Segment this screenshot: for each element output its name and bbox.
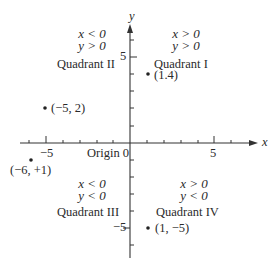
point-label-neg5-2: (−5, 2) bbox=[51, 102, 85, 115]
q3-y-cond: y < 0 bbox=[72, 190, 112, 202]
x-tick-label-neg5: −5 bbox=[40, 147, 53, 160]
point-neg5-2 bbox=[43, 106, 47, 110]
point-1-4 bbox=[146, 72, 150, 76]
y-axis-label: y bbox=[129, 10, 135, 23]
point-neg6-neg1 bbox=[29, 158, 33, 162]
q3-conditions: x < 0 y < 0 bbox=[72, 178, 112, 202]
q4-label: Quadrant IV bbox=[156, 206, 219, 219]
q4-conditions: x > 0 y < 0 bbox=[174, 178, 214, 202]
q3-label: Quadrant III bbox=[57, 206, 119, 219]
y-tick-label-neg5: −5 bbox=[113, 221, 126, 234]
y-tick-label-5: 5 bbox=[120, 50, 126, 63]
x-tick-label-5: 5 bbox=[210, 147, 216, 160]
q2-label: Quadrant II bbox=[57, 58, 115, 71]
point-label-1-neg5: (1, −5) bbox=[155, 222, 189, 235]
q1-y-cond: y > 0 bbox=[166, 40, 206, 52]
point-label-neg6-1: (−6, +1) bbox=[10, 164, 51, 177]
q2-conditions: x < 0 y > 0 bbox=[72, 28, 112, 52]
q1-conditions: x > 0 y > 0 bbox=[166, 28, 206, 52]
point-1-neg5 bbox=[146, 226, 150, 230]
point-label-1-4: (1.4) bbox=[154, 69, 178, 82]
coordinate-plane bbox=[0, 0, 272, 267]
q4-y-cond: y < 0 bbox=[174, 190, 214, 202]
origin-label: Origin 0 bbox=[87, 147, 129, 160]
q2-y-cond: y > 0 bbox=[72, 40, 112, 52]
x-axis-label: x bbox=[262, 136, 268, 149]
x-axis-arrow-icon bbox=[249, 140, 258, 146]
y-axis-arrow-icon bbox=[127, 24, 133, 33]
